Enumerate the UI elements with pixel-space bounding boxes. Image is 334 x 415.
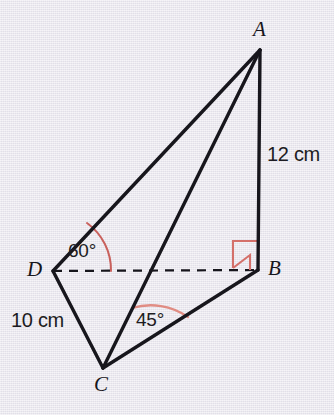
- edge-db-dashed: [53, 270, 258, 271]
- side-length-ab-label: 12 cm: [267, 144, 320, 164]
- angle-measure-c-label: 45°: [136, 310, 164, 329]
- angle-measure-d-label: 60°: [68, 241, 96, 260]
- edge-ab: [258, 50, 260, 270]
- geometry-figure: A B C D 12 cm 10 cm 60° 45°: [0, 0, 334, 415]
- vertex-label-c: C: [94, 374, 108, 395]
- geometry-canvas: [0, 0, 334, 415]
- vertex-label-d: D: [27, 259, 42, 280]
- vertex-label-a: A: [253, 19, 266, 40]
- vertex-label-b: B: [268, 258, 281, 279]
- right-angle-marker-b: [233, 241, 258, 270]
- edge-ad: [53, 50, 260, 271]
- side-length-dc-label: 10 cm: [11, 310, 64, 330]
